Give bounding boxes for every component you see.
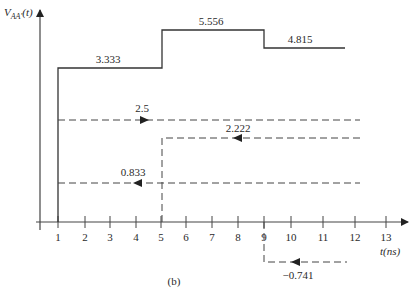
waveform-svg: VAA'(t) 1 2 3 4 5 6 7 8 9 10 11 12 13 t(…	[0, 0, 410, 290]
svg-text:1: 1	[55, 231, 61, 243]
value-0-833: 0.833	[121, 166, 146, 178]
value-4815: 4.815	[288, 33, 313, 45]
wave-2-222	[162, 138, 360, 222]
value-2-5: 2.5	[135, 102, 149, 114]
svg-text:11: 11	[318, 231, 329, 243]
wave-neg-0-741	[264, 222, 347, 262]
svg-text:2: 2	[82, 231, 88, 243]
svg-text:4: 4	[133, 231, 139, 243]
arrow-right-icon	[140, 116, 149, 124]
x-tick-labels: 1 2 3 4 5 6 7 8 9 10 11 12 13	[55, 231, 392, 243]
svg-text:3: 3	[107, 231, 113, 243]
svg-text:8: 8	[235, 231, 241, 243]
y-axis-label: VAA'(t)	[4, 6, 33, 21]
x-axis-label: t(ns)	[380, 245, 401, 258]
value-3333: 3.333	[96, 53, 121, 65]
arrow-left-icon	[233, 134, 242, 142]
arrow-left-icon	[133, 179, 142, 187]
svg-text:6: 6	[183, 231, 189, 243]
arrow-left-icon	[291, 258, 300, 266]
figure-caption: (b)	[168, 275, 181, 288]
svg-text:13: 13	[381, 231, 393, 243]
waveform-diagram: VAA'(t) 1 2 3 4 5 6 7 8 9 10 11 12 13 t(…	[0, 0, 410, 290]
svg-text:7: 7	[209, 231, 215, 243]
svg-text:5: 5	[158, 231, 164, 243]
value-neg-0-741: −0.741	[283, 269, 314, 281]
svg-text:10: 10	[286, 231, 298, 243]
value-2-222: 2.222	[226, 122, 251, 134]
svg-text:12: 12	[350, 231, 361, 243]
value-5556: 5.556	[199, 15, 224, 27]
